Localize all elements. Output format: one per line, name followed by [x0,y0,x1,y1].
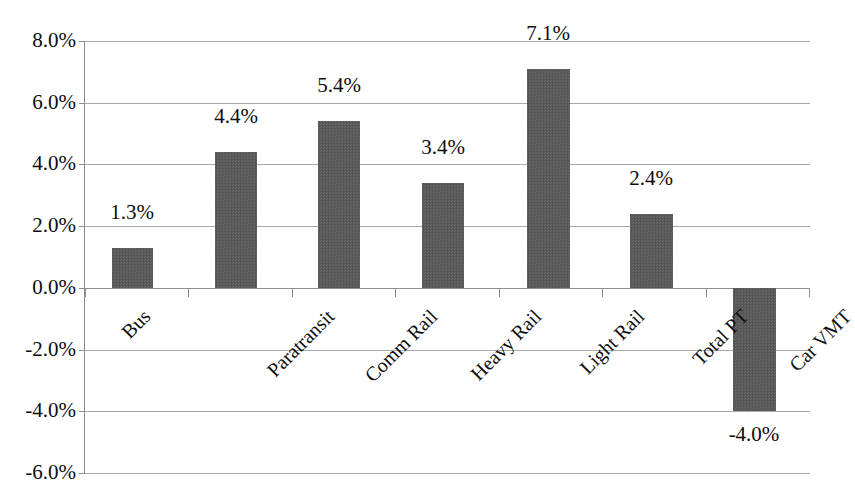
y-tick-neg2 [79,350,85,351]
value-label-heavy-rail: 3.4% [403,135,483,160]
value-label-comm-rail: 5.4% [299,73,379,98]
bar-total-pt [630,214,673,288]
y-tick-neg4 [79,411,85,412]
x-tick-5 [602,288,603,297]
y-tick-4 [79,164,85,165]
x-tick-6 [706,288,707,297]
bar-paratransit [215,152,257,288]
value-label-paratransit: 4.4% [196,104,276,129]
x-tick-3 [395,288,396,297]
y-tick-8 [79,41,85,42]
y-tick-label-0: 0.0% [0,275,76,300]
bar-light-rail [527,69,570,288]
gridline-zero [85,288,810,289]
bar-comm-rail [318,121,360,288]
value-label-bus: 1.3% [92,200,172,225]
y-tick-2 [79,226,85,227]
y-tick-label-4: 4.0% [0,151,76,176]
y-tick-label-2: 2.0% [0,213,76,238]
y-tick-label-neg2: -2.0% [0,337,76,362]
bar-heavy-rail [422,183,464,288]
y-tick-6 [79,103,85,104]
gridline-4 [85,164,810,165]
y-tick-label-neg4: -4.0% [0,398,76,423]
y-tick-label-8: 8.0% [0,28,76,53]
y-tick-label-6: 6.0% [0,90,76,115]
value-label-car-vmt: -4.0% [714,422,794,447]
x-tick-4 [499,288,500,297]
x-tick-1 [188,288,189,297]
gridline-neg6 [85,473,810,474]
x-tick-7 [809,288,810,297]
y-tick-neg6 [79,473,85,474]
bar-bus [112,248,153,288]
y-tick-label-neg6: -6.0% [0,460,76,481]
value-label-total-pt: 2.4% [611,166,691,191]
gridline-8 [85,41,810,42]
x-tick-0 [85,288,86,297]
value-label-light-rail: 7.1% [508,21,588,46]
gridline-6 [85,103,810,104]
x-tick-2 [292,288,293,297]
y-axis-labels: 8.0% 6.0% 4.0% 2.0% 0.0% -2.0% -4.0% -6.… [0,0,80,481]
